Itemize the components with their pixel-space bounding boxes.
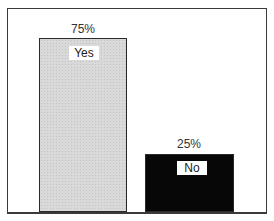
- value-label-no: 25%: [149, 137, 229, 151]
- bar-yes: Yes: [39, 38, 127, 212]
- category-label-yes: Yes: [69, 46, 99, 60]
- value-label-yes: 75%: [43, 22, 123, 36]
- chart-frame: 75% Yes 25% No: [7, 8, 267, 214]
- bar-no: No: [145, 154, 234, 212]
- category-label-no: No: [177, 161, 207, 175]
